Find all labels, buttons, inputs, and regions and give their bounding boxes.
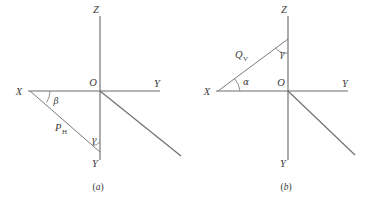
panel-b-label-gamma: γ	[279, 49, 285, 59]
panel-a-label-y-right: Y	[154, 78, 161, 89]
panel-a-vector-ph	[30, 91, 100, 152]
panel-b-label-alpha: α	[243, 77, 249, 87]
panel-b-label-origin: O	[277, 77, 285, 88]
panel-a-vector-main: P	[54, 122, 62, 133]
panel-b-x-prime-axis	[288, 91, 355, 155]
panel-a-label-z: Z	[93, 4, 99, 15]
panel-b-alpha-arc	[235, 79, 241, 92]
panel-a-vector-subscript: H	[62, 128, 67, 136]
panel-a-label-gamma: γ	[91, 135, 97, 145]
panel-b-caption: (b)	[280, 182, 291, 193]
panel-a-label-beta: β	[52, 96, 58, 106]
panel-a-label-x: X	[15, 86, 23, 97]
panel-b: Z Y X O Y α γ QV (b)	[203, 4, 355, 193]
panel-b-label-x: X	[203, 86, 211, 97]
panel-b-caption-close: )	[288, 182, 291, 193]
panel-a: Z Y X O Y β γ PH (a)	[15, 4, 181, 193]
panel-b-vector-subscript: V	[243, 55, 248, 63]
panel-b-label-y-bottom: Y	[280, 158, 287, 169]
panel-b-label-z: Z	[281, 4, 287, 15]
panel-a-label-origin: O	[89, 77, 97, 88]
panel-b-vector-label: QV	[235, 49, 248, 63]
panel-a-caption: (a)	[92, 182, 103, 193]
two-panel-axis-diagram: Z Y X O Y β γ PH (a)	[0, 0, 379, 199]
panel-a-label-y-bottom: Y	[92, 158, 99, 169]
panel-a-caption-close: )	[100, 182, 103, 193]
panel-b-vector-main: Q	[235, 49, 243, 60]
panel-a-beta-arc	[47, 91, 51, 103]
figure-root: Z Y X O Y β γ PH (a)	[0, 0, 379, 199]
panel-b-label-y-right: Y	[342, 78, 349, 89]
panel-a-vector-label: PH	[54, 122, 67, 136]
panel-a-x-prime-axis	[100, 91, 181, 156]
